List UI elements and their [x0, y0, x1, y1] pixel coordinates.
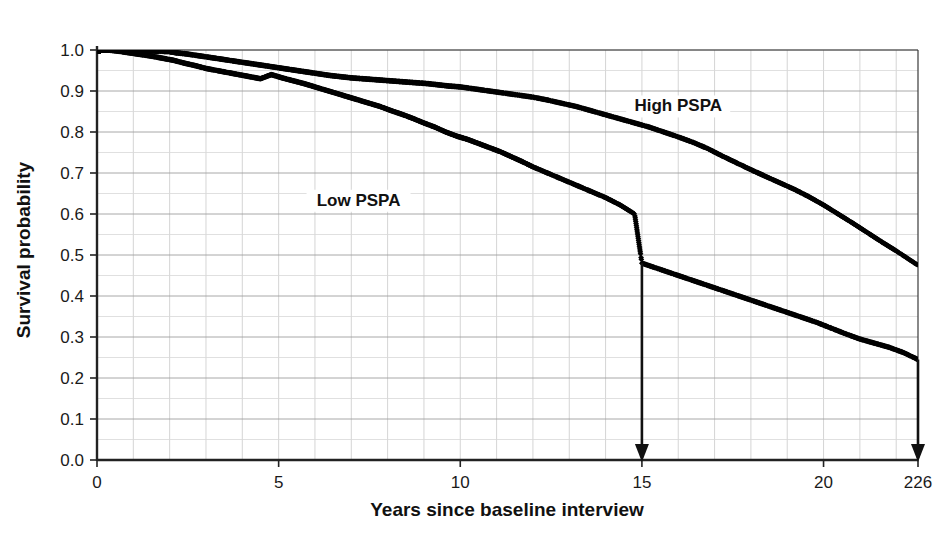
- y-tick-label: 0.8: [60, 123, 84, 142]
- y-tick-label: 0.3: [60, 328, 84, 347]
- figure-background: [0, 0, 940, 536]
- y-tick-label: 0.5: [60, 246, 84, 265]
- plot-area: 0.00.10.20.30.40.50.60.70.80.91.0 051015…: [0, 0, 940, 536]
- survival-curve-figure: 0.00.10.20.30.40.50.60.70.80.91.0 051015…: [0, 0, 940, 536]
- x-tick-label: 20: [814, 473, 833, 492]
- y-tick-label: 0.9: [60, 82, 84, 101]
- y-tick-label: 0.4: [60, 287, 84, 306]
- y-tick-label: 1.0: [60, 41, 84, 60]
- x-tick-label: 5: [274, 473, 283, 492]
- x-tick-label: 0: [92, 473, 101, 492]
- x-axis-title: Years since baseline interview: [370, 499, 644, 520]
- y-tick-label: 0.6: [60, 205, 84, 224]
- x-tick-label: 226: [904, 473, 932, 492]
- y-axis-title: Survival probability: [13, 161, 34, 338]
- y-tick-label: 0.2: [60, 369, 84, 388]
- y-tick-label: 0.7: [60, 164, 84, 183]
- x-tick-label: 15: [632, 473, 651, 492]
- series-label-1: High PSPA: [634, 96, 722, 115]
- series-label-2: Low PSPA: [317, 191, 401, 210]
- x-tick-label: 10: [451, 473, 470, 492]
- y-tick-label: 0.1: [60, 410, 84, 429]
- y-tick-label: 0.0: [60, 451, 84, 470]
